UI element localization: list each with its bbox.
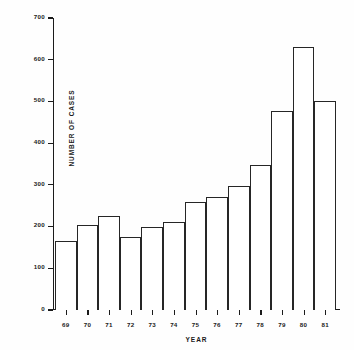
y-axis-tick: 100 <box>48 268 53 269</box>
y-axis-tick: 0 <box>48 309 53 310</box>
x-axis-tick-label: 71 <box>99 321 119 328</box>
x-axis-tick <box>325 310 326 315</box>
x-axis-tick <box>196 310 197 315</box>
x-axis-tick <box>152 310 153 315</box>
x-axis-tick <box>239 310 240 315</box>
y-axis-tick-label: 0 <box>41 305 45 312</box>
y-axis-tick: 700 <box>48 17 53 18</box>
bar <box>293 47 315 310</box>
y-axis-tick: 600 <box>48 59 53 60</box>
x-axis-tick <box>66 310 67 315</box>
y-axis-tick-label: 600 <box>34 55 45 62</box>
bar <box>98 216 120 310</box>
x-axis-tick <box>304 310 305 315</box>
bar <box>250 165 272 310</box>
x-axis-tick-label: 74 <box>164 321 184 328</box>
x-axis-tick-label: 76 <box>207 321 227 328</box>
x-axis-tick <box>282 310 283 315</box>
bar <box>271 111 293 310</box>
y-axis-tick: 300 <box>48 184 53 185</box>
bar <box>228 186 250 310</box>
y-axis-tick-label: 200 <box>34 221 45 228</box>
x-axis-tick-label: 70 <box>77 321 97 328</box>
x-axis-tick-label: 80 <box>294 321 314 328</box>
bar-chart-figure: NUMBER OF CASES 0100200300400500600700 6… <box>0 0 354 350</box>
x-axis-tick <box>87 310 88 315</box>
x-axis-tick <box>174 310 175 315</box>
x-axis-tick <box>131 310 132 315</box>
bar <box>55 241 77 310</box>
x-axis-tick-label: 81 <box>315 321 335 328</box>
x-axis-tick-label: 73 <box>142 321 162 328</box>
y-axis-tick-label: 100 <box>34 263 45 270</box>
y-axis-tick: 200 <box>48 226 53 227</box>
x-axis-tick-label: 79 <box>272 321 292 328</box>
bar <box>120 237 142 310</box>
bar <box>314 101 336 310</box>
y-axis-tick-label: 400 <box>34 138 45 145</box>
x-axis-tick-label: 69 <box>56 321 76 328</box>
x-axis-title: YEAR <box>53 336 340 343</box>
bar <box>163 222 185 310</box>
plot-area: 0100200300400500600700 69707172737475767… <box>53 18 340 310</box>
x-axis-tick-label: 77 <box>229 321 249 328</box>
y-axis-tick-label: 700 <box>34 13 45 20</box>
bar <box>206 197 228 310</box>
x-axis-tick <box>109 310 110 315</box>
y-axis-tick-label: 300 <box>34 180 45 187</box>
x-axis-tick <box>217 310 218 315</box>
bar <box>185 202 207 310</box>
bar <box>141 227 163 310</box>
y-axis-tick: 500 <box>48 101 53 102</box>
x-axis-tick-label: 72 <box>121 321 141 328</box>
y-axis-tick-label: 500 <box>34 96 45 103</box>
y-axis-tick: 400 <box>48 143 53 144</box>
bar <box>77 225 99 310</box>
x-axis-tick <box>260 310 261 315</box>
x-axis-tick-label: 75 <box>186 321 206 328</box>
x-axis-tick-label: 78 <box>250 321 270 328</box>
